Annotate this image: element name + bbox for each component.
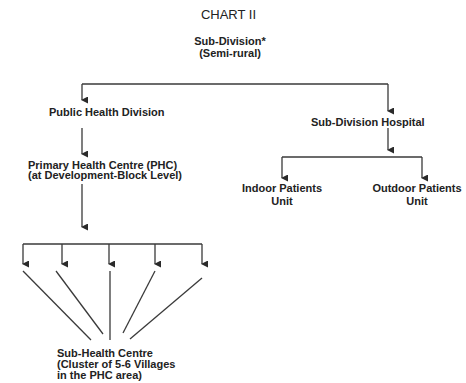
node-sub-health-centre: Sub-Health Centre (Cluster of 5-6 Villag… xyxy=(57,348,175,381)
node-subdivision-label: Sub-Division* xyxy=(150,36,310,47)
node-primary-health-centre: Primary Health Centre (PHC) (at Developm… xyxy=(28,160,182,180)
node-outdoor-line1: Outdoor Patients xyxy=(362,183,466,194)
chart-title: CHART II xyxy=(0,7,457,22)
node-outdoor-patients-unit: Outdoor Patients Unit xyxy=(362,183,466,207)
node-subdivision-sublabel: (Semi-rural) xyxy=(150,48,310,59)
node-sub-division-hospital: Sub-Division Hospital xyxy=(311,117,425,128)
node-indoor-line1: Indoor Patients xyxy=(232,183,332,194)
node-indoor-line2: Unit xyxy=(232,196,332,207)
node-outdoor-line2: Unit xyxy=(362,196,466,207)
node-subhealth-line3: in the PHC area) xyxy=(57,370,175,381)
node-public-health-division: Public Health Division xyxy=(49,107,165,118)
node-subdivision: Sub-Division* (Semi-rural) xyxy=(150,36,310,59)
node-phc-sublabel: (at Development-Block Level) xyxy=(28,170,182,180)
node-indoor-patients-unit: Indoor Patients Unit xyxy=(232,183,332,207)
